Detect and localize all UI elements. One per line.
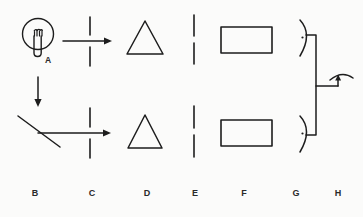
- diagram-canvas: [0, 0, 363, 217]
- light-bulb-icon: [23, 19, 54, 57]
- vertical-incident-beam: [34, 77, 41, 107]
- component-label-a: A: [41, 55, 55, 65]
- rectangle-screen-f-top: [221, 27, 272, 53]
- column-label-b: B: [27, 188, 43, 198]
- rectangle-screen-f-bottom: [221, 120, 272, 146]
- column-label-d: D: [139, 188, 155, 198]
- mirror-surface: [18, 116, 60, 147]
- column-label-g: G: [288, 188, 304, 198]
- horizontal-reflected-beam: [38, 130, 111, 137]
- column-label-c: C: [84, 188, 100, 198]
- column-label-e: E: [187, 188, 203, 198]
- eye-pair-bracket: [306, 35, 338, 135]
- horizontal-light-beam-top: [63, 38, 112, 45]
- prism-triangle-d-bottom: [128, 115, 162, 148]
- column-label-f: F: [236, 188, 252, 198]
- eye-observer-g-bottom: [300, 116, 307, 152]
- optics-diagram-figure: A B C D E F G H: [0, 0, 363, 217]
- prism-triangle-d-top: [127, 21, 163, 54]
- rotation-arrow-icon: [330, 74, 353, 86]
- eye-observer-g-top: [300, 20, 307, 56]
- column-label-h: H: [330, 188, 346, 198]
